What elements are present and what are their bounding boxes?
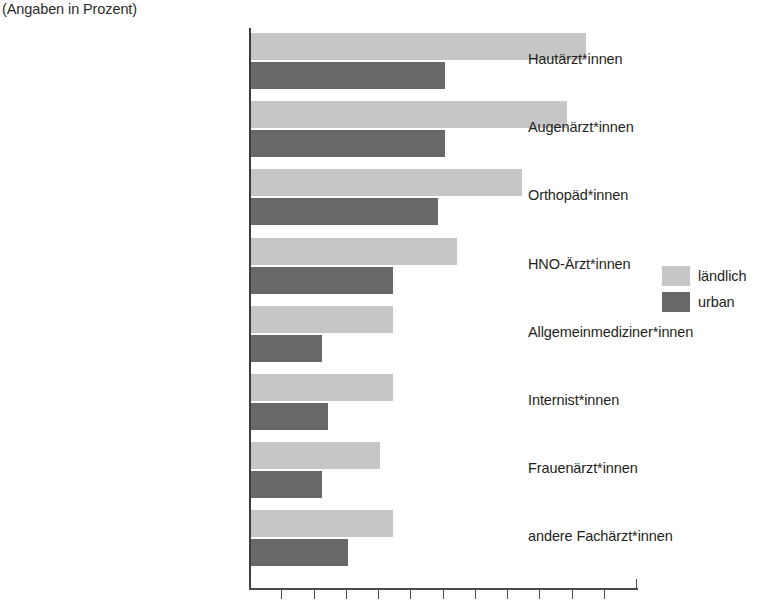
bar-rural	[251, 306, 393, 333]
legend-item-urban: urban	[662, 290, 771, 316]
x-axis-tick	[378, 590, 379, 599]
category-label-text: andere Fachärzt*innen	[528, 527, 771, 545]
x-axis-line	[249, 588, 638, 590]
x-axis-tick	[604, 590, 605, 599]
bar-urban	[251, 335, 322, 362]
category-label-text: Internist*innen	[528, 391, 771, 409]
bar-rural	[251, 238, 457, 265]
legend-swatch-rural-icon	[662, 266, 690, 286]
x-axis-tick	[346, 590, 347, 599]
category-label: Allgemeinmediziner*innen	[528, 323, 771, 341]
x-axis-tick	[249, 579, 250, 590]
category-label-text: Hautärzt*innen	[528, 50, 771, 68]
bar-rural	[251, 101, 567, 128]
bar-urban	[251, 403, 328, 430]
x-axis-tick	[410, 590, 411, 599]
x-axis-tick	[507, 590, 508, 599]
bar-urban	[251, 62, 445, 89]
x-axis-tick	[443, 590, 444, 599]
bar-urban	[251, 539, 348, 566]
category-label: Internist*innen	[528, 391, 771, 409]
bar-urban	[251, 130, 445, 157]
x-axis-tick	[475, 590, 476, 599]
category-label-text: Augenärzt*innen	[528, 118, 771, 136]
category-label: Frauenärzt*innen	[528, 459, 771, 477]
category-label: Augenärzt*innen	[528, 118, 771, 136]
bar-urban	[251, 471, 322, 498]
x-axis-tick	[314, 590, 315, 599]
category-label: andere Fachärzt*innen	[528, 527, 771, 545]
x-axis-tick	[572, 590, 573, 599]
bar-urban	[251, 267, 393, 294]
bar-rural	[251, 442, 380, 469]
bar-rural	[251, 374, 393, 401]
chart-legend: ländlich urban	[662, 264, 771, 316]
bar-urban	[251, 198, 438, 225]
legend-swatch-urban-icon	[662, 292, 690, 312]
category-label: Orthopäd*innen	[528, 186, 771, 204]
bar-rural	[251, 169, 522, 196]
bar-chart: (Angaben in Prozent) Hautärzt*innenAugen…	[0, 0, 771, 603]
x-axis-tick	[636, 579, 637, 590]
category-label-text: Allgemeinmediziner*innen	[528, 323, 771, 341]
x-axis-tick	[281, 590, 282, 599]
chart-subtitle: (Angaben in Prozent)	[2, 0, 137, 18]
bar-rural	[251, 510, 393, 537]
x-axis-tick	[539, 590, 540, 599]
legend-item-rural: ländlich	[662, 264, 771, 290]
category-label-text: Orthopäd*innen	[528, 186, 771, 204]
category-label-text: Frauenärzt*innen	[528, 459, 771, 477]
category-label: Hautärzt*innen	[528, 50, 771, 68]
legend-label-urban: urban	[698, 290, 735, 314]
legend-label-rural: ländlich	[698, 264, 746, 288]
plot-area	[249, 28, 638, 588]
